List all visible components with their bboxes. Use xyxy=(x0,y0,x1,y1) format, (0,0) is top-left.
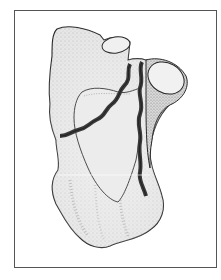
bone-illustration xyxy=(0,0,221,280)
right-articular-head xyxy=(142,56,190,168)
